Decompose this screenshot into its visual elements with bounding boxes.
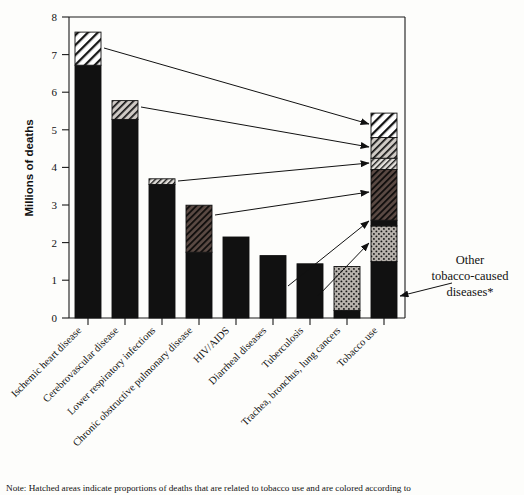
bar-solid-segment [297, 264, 323, 318]
bar-solid-segment [260, 256, 286, 318]
annotation-line-2: tobacco-caused [431, 269, 509, 283]
bar-lower-respiratory-infections [149, 179, 175, 318]
y-tick-2: 2 [52, 237, 70, 249]
tobacco-deaths-chart: 8 7 6 5 4 3 2 1 0 Millions of deaths [0, 0, 524, 495]
stack-cerebrovascular [371, 138, 397, 159]
bar-cerebrovascular-disease [112, 101, 138, 318]
bar-solid-segment [112, 119, 138, 318]
annotation-line-3: diseases* [446, 285, 493, 299]
y-tick-0: 0 [52, 312, 70, 324]
bar-solid-segment [149, 185, 175, 319]
y-axis: 8 7 6 5 4 3 2 1 0 [52, 11, 70, 324]
y-tick-label: 4 [52, 161, 58, 173]
y-tick-6: 6 [52, 86, 70, 98]
x-axis-labels: Ischemic heart disease Cerebrovascular d… [9, 324, 380, 448]
bar-hatched-segment [149, 179, 175, 185]
stack-lung-cancers [371, 226, 397, 262]
bar-hiv-aids [223, 237, 249, 318]
bar-diarrheal-diseases [260, 256, 286, 318]
bar-solid-segment [75, 65, 101, 318]
y-tick-7: 7 [52, 49, 70, 61]
y-tick-label: 6 [52, 86, 58, 98]
bar-hatched-segment [334, 267, 360, 311]
x-tick-label-8: Tobacco use [335, 324, 380, 369]
bar-hatched-segment [186, 205, 212, 252]
chart-svg: 8 7 6 5 4 3 2 1 0 Millions of deaths [0, 0, 524, 495]
y-tick-3: 3 [52, 199, 70, 211]
stack-lower-respiratory-infections [371, 158, 397, 169]
x-tick-label-0: Ischemic heart disease [9, 324, 84, 399]
stack-other-tobacco-caused [371, 262, 397, 318]
y-tick-5: 5 [52, 124, 70, 136]
stack-divider-band [371, 220, 397, 226]
bar-chronic-obstructive-pulmonary-disease [186, 205, 212, 318]
y-tick-label: 1 [52, 274, 58, 286]
bar-ischemic-heart-disease [75, 32, 101, 318]
bar-solid-segment [223, 237, 249, 318]
y-tick-label: 7 [52, 49, 58, 61]
stack-ischemic-heart-disease [371, 113, 397, 137]
bar-tobacco-use [371, 113, 397, 318]
y-tick-label: 8 [52, 11, 58, 23]
y-tick-label: 3 [52, 199, 58, 211]
bar-hatched-segment [112, 101, 138, 120]
annotation-other-tobacco-caused: Other tobacco-caused diseases* [400, 253, 509, 299]
y-tick-label: 0 [52, 312, 58, 324]
y-tick-1: 1 [52, 274, 70, 286]
bar-trachea-bronchus-lung-cancers [334, 267, 360, 319]
y-tick-label: 2 [52, 237, 58, 249]
y-tick-8: 8 [52, 11, 70, 23]
bar-tuberculosis [297, 264, 323, 318]
y-tick-4: 4 [52, 161, 70, 173]
bar-solid-segment [334, 310, 360, 318]
figure-note: Note: Hatched areas indicate proportions… [6, 483, 411, 493]
y-axis-label: Millions of deaths [23, 119, 35, 216]
bar-hatched-segment [75, 32, 101, 65]
stack-copd [371, 170, 397, 221]
bar-solid-segment [186, 252, 212, 318]
x-axis-ticks [88, 318, 384, 325]
y-tick-label: 5 [52, 124, 58, 136]
annotation-line-1: Other [456, 253, 485, 267]
